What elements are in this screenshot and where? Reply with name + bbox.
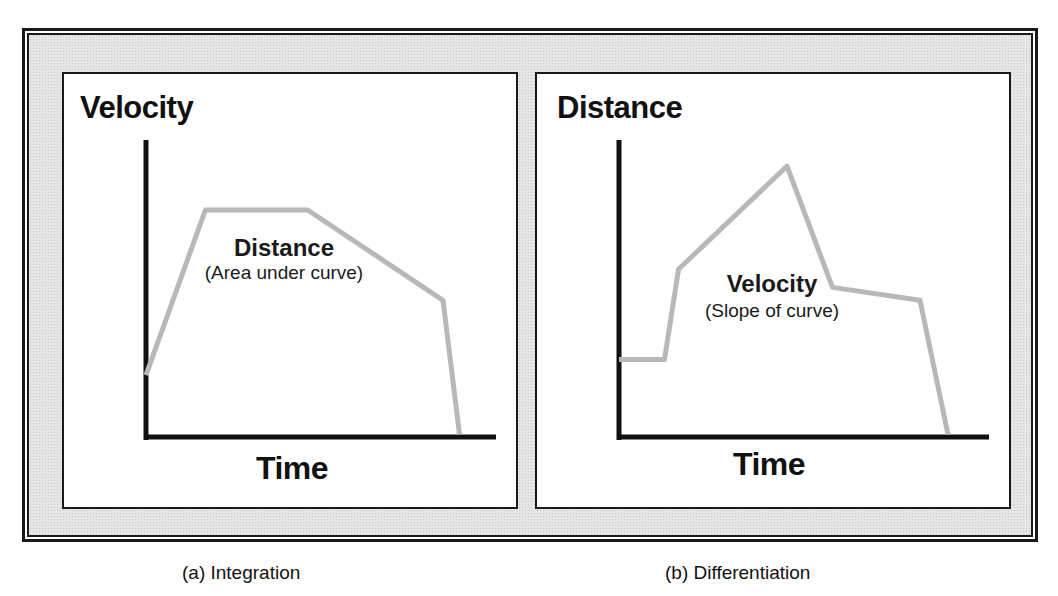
panel-differentiation: Distance Velocity (Slope of curve) Time: [535, 72, 1011, 509]
caption-differentiation: (b) Differentiation: [665, 562, 810, 584]
integration-plot: [64, 74, 516, 507]
caption-integration: (a) Integration: [182, 562, 300, 584]
panel-integration: Velocity Distance (Area under curve) Tim…: [62, 72, 518, 509]
annotation-subtitle: (Area under curve): [174, 262, 394, 284]
x-axis-label: Time: [733, 446, 805, 483]
annotation-title: Velocity: [682, 270, 862, 298]
annotation-subtitle: (Slope of curve): [662, 300, 882, 322]
x-axis-label: Time: [256, 450, 328, 487]
annotation-title: Distance: [194, 234, 374, 262]
